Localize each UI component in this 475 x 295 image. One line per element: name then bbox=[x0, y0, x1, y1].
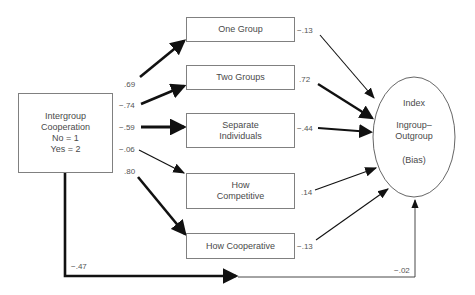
coef-out-two-groups: .72 bbox=[299, 75, 310, 84]
mediator-label-line-1: Separate bbox=[222, 120, 259, 131]
mediator-label-line-2: Competitive bbox=[217, 191, 265, 202]
coef-in-how-competitive: −.06 bbox=[119, 145, 135, 154]
mediator-how-cooperative: How Cooperative bbox=[186, 233, 295, 259]
outcome-line-ingroup: Ingroup– bbox=[374, 120, 454, 131]
arrow-separate-individuals-to-outcome bbox=[318, 128, 371, 132]
arrow-source-to-how-competitive bbox=[139, 150, 184, 173]
source-line-3: No = 1 bbox=[52, 133, 79, 144]
coef-in-how-cooperative: .80 bbox=[124, 167, 135, 176]
coef-out-one-group: −.13 bbox=[297, 26, 313, 35]
arrow-one-group-to-outcome bbox=[320, 35, 374, 98]
source-line-1: Intergroup bbox=[45, 111, 86, 122]
mediator-label: How Cooperative bbox=[206, 241, 275, 252]
source-line-4: Yes = 2 bbox=[51, 144, 81, 155]
mediator-two-groups: Two Groups bbox=[186, 65, 295, 90]
coef-in-separate-individuals: −.59 bbox=[119, 123, 135, 132]
mediator-one-group: One Group bbox=[186, 17, 295, 42]
coef-direct-second: −.02 bbox=[394, 266, 410, 275]
source-node-intergroup-cooperation: Intergroup Cooperation No = 1 Yes = 2 bbox=[18, 93, 113, 173]
mediator-label-line-2: Individuals bbox=[219, 131, 262, 142]
arrow-two-groups-to-outcome bbox=[318, 84, 372, 118]
source-line-2: Cooperation bbox=[41, 122, 90, 133]
coef-out-separate-individuals: −.44 bbox=[297, 124, 313, 133]
arrow-source-to-two-groups bbox=[141, 86, 184, 104]
arrow-how-competitive-to-outcome bbox=[315, 168, 376, 190]
path-diagram: Intergroup Cooperation No = 1 Yes = 2 On… bbox=[0, 0, 475, 295]
mediator-how-competitive: How Competitive bbox=[186, 173, 295, 209]
mediator-label-line-1: How bbox=[231, 180, 249, 191]
mediator-label: One Group bbox=[218, 24, 263, 35]
coef-in-two-groups: −.74 bbox=[119, 101, 135, 110]
outcome-line-bias: (Bias) bbox=[374, 155, 454, 166]
coef-direct-first: −.47 bbox=[71, 262, 87, 271]
mediator-separate-individuals: Separate Individuals bbox=[186, 113, 295, 148]
arrow-source-to-one-group bbox=[140, 41, 184, 77]
coef-out-how-cooperative: −.13 bbox=[297, 242, 313, 251]
arrow-source-to-how-cooperative bbox=[138, 177, 185, 234]
outcome-line-index: Index bbox=[374, 98, 454, 109]
mediator-label: Two Groups bbox=[216, 72, 265, 83]
coef-out-how-competitive: .14 bbox=[301, 188, 312, 197]
arrow-how-cooperative-to-outcome bbox=[316, 189, 388, 240]
coef-in-one-group: .69 bbox=[124, 80, 135, 89]
outcome-line-outgroup: Outgroup bbox=[374, 131, 454, 142]
